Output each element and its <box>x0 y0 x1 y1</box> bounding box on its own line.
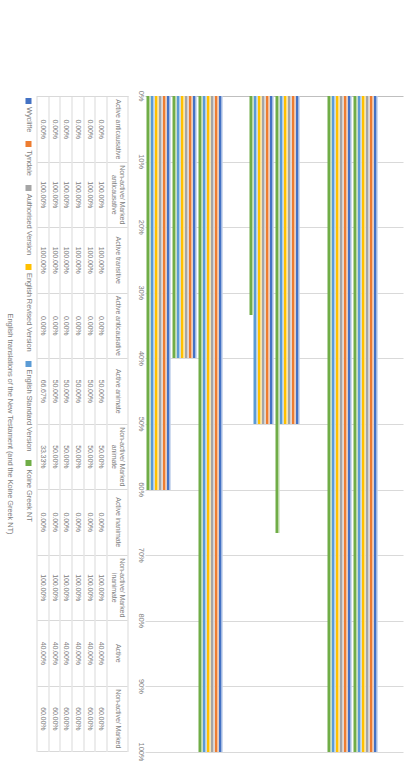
bar[interactable] <box>283 96 287 424</box>
bar[interactable] <box>343 96 347 752</box>
bar[interactable] <box>347 96 351 752</box>
bar[interactable] <box>265 96 269 424</box>
legend-item[interactable]: English Revised Version <box>24 264 33 352</box>
legend-item[interactable]: Koine Greek NT <box>24 460 33 521</box>
data-table-cell: 100.00% <box>95 228 106 294</box>
data-table-row: 0.00%100.00%100.00%0.00%50.00%50.00%0.00… <box>83 97 95 752</box>
bar[interactable] <box>198 96 202 752</box>
bar[interactable] <box>327 96 331 752</box>
data-table-cell: 0.00% <box>49 294 60 360</box>
data-table-cell: 60.00% <box>37 687 48 753</box>
data-table-cell: 0.00% <box>60 490 71 556</box>
bar[interactable] <box>184 96 188 358</box>
value-axis: 0%10%20%30%40%50%60%70%80%90%100% <box>129 96 145 752</box>
value-axis-tick-label: 90% <box>136 679 145 694</box>
data-table-cell: 0.00% <box>84 490 95 556</box>
bar-group <box>378 96 403 752</box>
data-table-cell: 0.00% <box>84 97 95 163</box>
data-table-cell: 50.00% <box>95 359 106 425</box>
bar-group <box>197 96 223 752</box>
data-table-cell: 100.00% <box>72 163 83 229</box>
data-table-cell: 100.00% <box>84 163 95 229</box>
data-table-column-header: Active anticausative <box>107 294 127 360</box>
bar[interactable] <box>158 96 162 490</box>
bar[interactable] <box>176 96 180 358</box>
bar[interactable] <box>162 96 166 490</box>
data-table-cell: 60.00% <box>95 687 106 753</box>
data-table-cell: 50.00% <box>84 425 95 491</box>
legend-label: Koine Greek NT <box>24 469 33 521</box>
legend-label: English Revised Version <box>24 273 33 352</box>
data-table-row: 0.00%100.00%100.00%0.00%50.00%50.00%0.00… <box>94 97 106 752</box>
bar[interactable] <box>150 96 154 490</box>
data-table-cell: 100.00% <box>37 228 48 294</box>
bar[interactable] <box>154 96 158 490</box>
bar[interactable] <box>275 96 279 533</box>
bar[interactable] <box>188 96 192 358</box>
data-table-cell: 100.00% <box>84 556 95 622</box>
data-table-cell: 0.00% <box>49 97 60 163</box>
bar[interactable] <box>279 96 283 424</box>
bar[interactable] <box>331 96 335 752</box>
bar[interactable] <box>172 96 176 358</box>
bar-groups <box>145 96 403 752</box>
bar-group <box>274 96 300 752</box>
bar-group <box>352 96 378 752</box>
data-table-cell: 100.00% <box>95 556 106 622</box>
bar[interactable] <box>218 96 222 752</box>
data-table-cell: 100.00% <box>49 556 60 622</box>
legend-item[interactable]: Wycliffe <box>24 98 33 132</box>
legend-item[interactable]: English Standard Version <box>24 361 33 452</box>
data-table-cell: 0.00% <box>60 294 71 360</box>
data-table-cell: 0.00% <box>49 490 60 556</box>
data-table-header-row: Active anticausativeNon-active/ Marked a… <box>106 97 127 752</box>
data-table-cell: 100.00% <box>72 228 83 294</box>
data-table-cell: 0.00% <box>72 294 83 360</box>
bar[interactable] <box>335 96 339 752</box>
data-table-cell: 40.00% <box>84 621 95 687</box>
bar[interactable] <box>214 96 218 752</box>
bar[interactable] <box>365 96 369 752</box>
legend-item[interactable]: Tyndale <box>24 141 33 176</box>
bar[interactable] <box>180 96 184 358</box>
bar[interactable] <box>373 96 377 752</box>
data-table-column-header: Active <box>107 621 127 687</box>
bar[interactable] <box>206 96 210 752</box>
value-axis-tick-label: 20% <box>136 220 145 235</box>
data-table-cell: 100.00% <box>49 228 60 294</box>
bar[interactable] <box>361 96 365 752</box>
bar[interactable] <box>253 96 257 424</box>
data-table-column-header: Active transitive <box>107 228 127 294</box>
bar-group <box>223 96 248 752</box>
x-axis-title: English translations of the New Testamen… <box>5 96 14 752</box>
value-axis-tick-label: 50% <box>136 417 145 432</box>
bar[interactable] <box>291 96 295 424</box>
data-table-cell: 50.00% <box>95 425 106 491</box>
value-axis-tick-label: 40% <box>136 351 145 366</box>
data-table-cell: 0.00% <box>37 97 48 163</box>
bar[interactable] <box>146 96 150 490</box>
bar[interactable] <box>269 96 273 424</box>
bar-group <box>248 96 274 752</box>
bar[interactable] <box>210 96 214 752</box>
bar[interactable] <box>249 96 253 315</box>
bar[interactable] <box>353 96 357 752</box>
data-table-cell: 40.00% <box>37 621 48 687</box>
bar[interactable] <box>166 96 170 490</box>
bar[interactable] <box>202 96 206 752</box>
bar[interactable] <box>192 96 196 358</box>
data-table-cell: 0.00% <box>95 294 106 360</box>
bar[interactable] <box>369 96 373 752</box>
bar[interactable] <box>339 96 343 752</box>
data-table-cell: 0.00% <box>37 294 48 360</box>
bar[interactable] <box>357 96 361 752</box>
bar[interactable] <box>261 96 265 424</box>
data-table-cell: 100.00% <box>95 163 106 229</box>
legend-item[interactable]: Authorised Version <box>24 185 33 255</box>
data-table-row: 0.00%100.00%100.00%0.00%50.00%50.00%0.00… <box>71 97 83 752</box>
bar[interactable] <box>287 96 291 424</box>
data-table-cell: 50.00% <box>49 359 60 425</box>
bar[interactable] <box>257 96 261 424</box>
bar[interactable] <box>295 96 299 424</box>
